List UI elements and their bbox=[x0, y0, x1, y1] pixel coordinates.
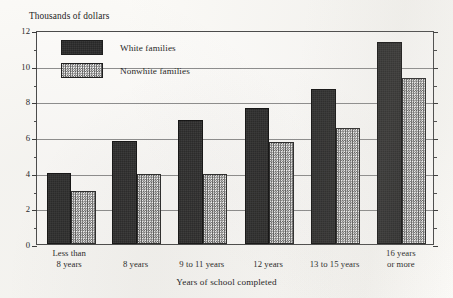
bar-white-families-1 bbox=[112, 141, 137, 244]
bar-white-families-0 bbox=[47, 173, 72, 244]
bar-chart-figure: Thousands of dollars 024681012 White fam… bbox=[0, 0, 453, 298]
bar-group-4 bbox=[311, 32, 360, 244]
bar-white-families-2 bbox=[178, 120, 203, 244]
y-tick-minor-5 bbox=[433, 157, 437, 158]
legend-swatch-white-families bbox=[61, 40, 103, 55]
bar-white-families-4 bbox=[311, 89, 336, 244]
legend-item-nonwhite-families: Nonwhite families bbox=[61, 61, 190, 80]
bar-nonwhite-families-0 bbox=[71, 191, 96, 244]
bar-white-families-3 bbox=[245, 108, 270, 244]
y-tick-label-2: 2 bbox=[0, 205, 30, 214]
y-tick-4 bbox=[433, 175, 438, 176]
bar-nonwhite-families-1 bbox=[137, 174, 162, 244]
y-tick-10 bbox=[433, 68, 438, 69]
bar-nonwhite-families-3 bbox=[269, 142, 294, 244]
bar-nonwhite-families-5 bbox=[402, 78, 427, 244]
y-tick-label-0: 0 bbox=[0, 241, 30, 250]
bar-group-3 bbox=[245, 32, 294, 244]
y-tick-minor-1 bbox=[433, 228, 437, 229]
legend-label-white-families: White families bbox=[120, 43, 176, 53]
x-tick-label-5: 16 years or more bbox=[359, 248, 443, 269]
y-tick-0 bbox=[32, 246, 37, 247]
y-tick-label-8: 8 bbox=[0, 98, 30, 107]
y-tick-6 bbox=[433, 139, 438, 140]
bar-nonwhite-families-2 bbox=[203, 174, 228, 244]
bar-nonwhite-families-4 bbox=[336, 128, 361, 244]
x-axis-tick-labels: Less than 8 years8 years9 to 11 years12 … bbox=[36, 248, 434, 276]
chart-legend: White families Nonwhite families bbox=[61, 38, 190, 84]
y-tick-minor-11 bbox=[433, 50, 437, 51]
y-axis-title: Thousands of dollars bbox=[29, 11, 109, 21]
y-tick-minor-7 bbox=[433, 121, 437, 122]
y-tick-label-4: 4 bbox=[0, 169, 30, 178]
y-tick-2 bbox=[433, 210, 438, 211]
y-tick-8 bbox=[433, 103, 438, 104]
y-tick-label-6: 6 bbox=[0, 134, 30, 143]
y-tick-minor-9 bbox=[433, 86, 437, 87]
y-tick-0 bbox=[433, 246, 438, 247]
bar-group-5 bbox=[377, 32, 426, 244]
x-axis-title: Years of school completed bbox=[0, 277, 453, 287]
y-tick-12 bbox=[433, 32, 438, 33]
legend-item-white-families: White families bbox=[61, 38, 190, 57]
legend-label-nonwhite-families: Nonwhite families bbox=[120, 66, 190, 76]
bar-white-families-5 bbox=[377, 42, 402, 244]
legend-swatch-nonwhite-families bbox=[61, 63, 103, 78]
y-tick-label-10: 10 bbox=[0, 62, 30, 71]
y-tick-minor-3 bbox=[433, 193, 437, 194]
y-tick-label-12: 12 bbox=[0, 27, 30, 36]
